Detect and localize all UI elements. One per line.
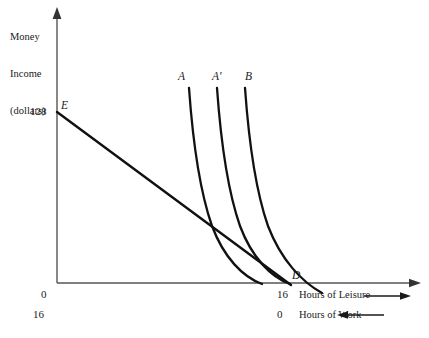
- x-axis-caption-leisure: Hours of Leisure: [299, 289, 370, 301]
- point-label-d: D: [292, 269, 300, 283]
- indifference-curve-b: [245, 88, 322, 293]
- leisure-direction-arrow: [364, 292, 411, 300]
- x-axis: [57, 279, 421, 287]
- figure-canvas: [0, 0, 429, 338]
- x-tick-leisure-sixteen: 16: [277, 288, 288, 301]
- y-axis-title-line-2: Income: [10, 68, 46, 80]
- y-axis: [53, 7, 62, 283]
- y-tick-128: 128: [30, 105, 47, 118]
- budget-line: [57, 112, 291, 285]
- point-label-e: E: [61, 99, 68, 113]
- x-tick-work-zero: 0: [277, 308, 283, 321]
- origin-label-work-sixteen: 16: [33, 308, 44, 321]
- indifference-curve-figure: Money Income (dollars) 128 E D A A′ B 0 …: [0, 0, 429, 338]
- curve-label-b: B: [245, 70, 252, 84]
- origin-label-leisure-zero: 0: [41, 288, 47, 301]
- y-axis-title-line-1: Money: [10, 31, 46, 43]
- curve-label-a-prime: A′: [212, 70, 222, 84]
- curve-label-a: A: [178, 70, 185, 84]
- x-axis-caption-work: Hours of Work: [299, 309, 362, 321]
- y-axis-title: Money Income (dollars): [10, 6, 46, 142]
